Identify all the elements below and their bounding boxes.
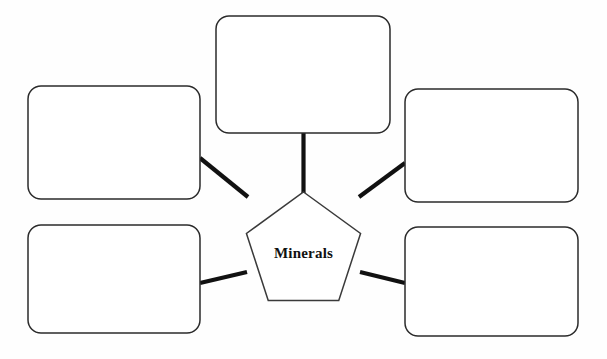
- node-lower-right-box[interactable]: [405, 227, 578, 336]
- node-upper-right[interactable]: [405, 89, 578, 202]
- node-lower-right[interactable]: [405, 227, 578, 336]
- node-top-box[interactable]: [216, 16, 390, 133]
- concept-map-page: Minerals: [0, 0, 607, 359]
- concept-map-diagram: Minerals: [0, 0, 607, 359]
- center-node[interactable]: Minerals: [246, 192, 360, 301]
- node-upper-right-box[interactable]: [405, 89, 578, 202]
- connector-lower-right: [360, 272, 405, 283]
- node-top[interactable]: [216, 16, 390, 133]
- center-label: Minerals: [274, 245, 333, 261]
- connector-upper-right: [359, 163, 405, 197]
- node-upper-left[interactable]: [28, 86, 200, 199]
- connector-lower-left: [200, 272, 247, 283]
- connector-upper-left: [200, 158, 248, 197]
- node-lower-left-box[interactable]: [28, 225, 200, 333]
- node-upper-left-box[interactable]: [28, 86, 200, 199]
- node-lower-left[interactable]: [28, 225, 200, 333]
